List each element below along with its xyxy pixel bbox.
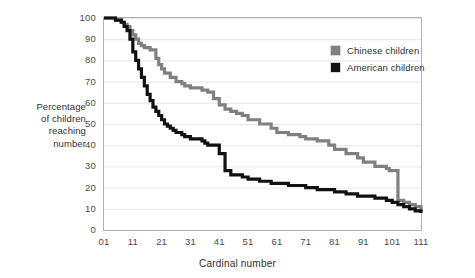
chart-figure: Percentage of children reaching number 0… <box>0 0 475 278</box>
x-axis-tick: 91 <box>348 236 378 247</box>
y-axis-tick: 90 <box>70 33 96 44</box>
y-axis-tick: 60 <box>70 97 96 108</box>
y-axis-tick: 80 <box>70 54 96 65</box>
y-axis-tick: 70 <box>70 76 96 87</box>
x-axis-tick: 111 <box>406 236 436 247</box>
x-axis-tick: 01 <box>89 236 119 247</box>
y-axis-tick: 40 <box>70 139 96 150</box>
legend-swatch-american <box>330 62 341 73</box>
y-axis-tick: 100 <box>70 12 96 23</box>
legend-swatch-chinese <box>330 45 341 56</box>
x-axis-tick: 101 <box>377 236 407 247</box>
x-axis-tick: 31 <box>175 236 205 247</box>
legend-item-chinese: Chinese children <box>330 45 425 56</box>
x-axis-tick: 61 <box>262 236 292 247</box>
y-axis-tick: 20 <box>70 182 96 193</box>
x-axis-tick: 11 <box>118 236 148 247</box>
legend-label-american: American children <box>347 62 425 73</box>
x-axis-tick: 21 <box>147 236 177 247</box>
y-axis-tick: 0 <box>70 224 96 235</box>
legend-item-american: American children <box>330 62 425 73</box>
y-axis-tick: 50 <box>70 118 96 129</box>
x-axis-tick: 41 <box>204 236 234 247</box>
y-axis-tick: 10 <box>70 203 96 214</box>
x-axis-tick: 81 <box>320 236 350 247</box>
y-axis-tick: 30 <box>70 160 96 171</box>
chart-legend: Chinese children American children <box>330 45 425 73</box>
x-axis-tick: 71 <box>291 236 321 247</box>
x-axis-tick: 51 <box>233 236 263 247</box>
legend-label-chinese: Chinese children <box>347 45 419 56</box>
x-axis-label: Cardinal number <box>0 258 475 269</box>
